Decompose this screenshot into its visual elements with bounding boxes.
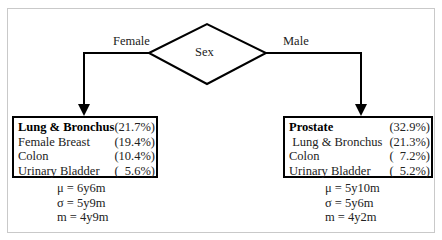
female-arrowhead-icon (78, 104, 90, 116)
male-row-3: Colon ( 7.2%) (289, 149, 431, 164)
cancer-percent: (32.9%) (389, 120, 431, 135)
cancer-name: Colon (18, 149, 49, 164)
cancer-name: Urinary Bladder (18, 164, 100, 179)
female-connector (84, 53, 149, 106)
male-connector (266, 53, 361, 106)
female-stats: μ = 6y6m σ = 5y9m m = 4y9m (57, 181, 109, 225)
edge-label-female: Female (113, 34, 150, 49)
cancer-percent: (21.7%) (114, 120, 156, 135)
cancer-percent: ( 5.6%) (114, 164, 156, 179)
male-mean: μ = 5y10m (325, 181, 380, 196)
cancer-name: Female Breast (18, 135, 90, 150)
cancer-percent: (19.4%) (114, 135, 156, 150)
cancer-percent: ( 5.2%) (389, 164, 431, 179)
male-stddev: σ = 5y6m (325, 196, 380, 211)
edge-label-male: Male (283, 34, 309, 49)
male-row-1: Prostate (32.9%) (289, 120, 431, 135)
cancer-name: Colon (289, 149, 320, 164)
female-row-2: Female Breast (19.4%) (18, 135, 156, 150)
female-median: m = 4y9m (57, 210, 109, 225)
female-row-1: Lung & Bronchus (21.7%) (18, 120, 156, 135)
male-cancer-box: Prostate (32.9%) Lung & Bronchus (21.3%)… (283, 116, 433, 178)
female-mean: μ = 6y6m (57, 181, 109, 196)
cancer-name: Lung & Bronchus (289, 135, 382, 150)
male-row-4: Urinary Bladder ( 5.2%) (289, 164, 431, 179)
cancer-name: Lung & Bronchus (18, 120, 114, 135)
cancer-percent: (10.4%) (114, 149, 156, 164)
male-median: m = 4y2m (325, 210, 380, 225)
female-row-4: Urinary Bladder ( 5.6%) (18, 164, 156, 179)
decision-label: Sex (195, 45, 214, 60)
female-stddev: σ = 5y9m (57, 196, 109, 211)
cancer-name: Prostate (289, 120, 333, 135)
male-arrowhead-icon (355, 104, 367, 116)
male-stats: μ = 5y10m σ = 5y6m m = 4y2m (325, 181, 380, 225)
female-cancer-box: Lung & Bronchus (21.7%) Female Breast (1… (12, 116, 158, 178)
cancer-percent: ( 7.2%) (389, 149, 431, 164)
cancer-percent: (21.3%) (389, 135, 431, 150)
male-row-2: Lung & Bronchus (21.3%) (289, 135, 431, 150)
cancer-name: Urinary Bladder (289, 164, 371, 179)
female-row-3: Colon (10.4%) (18, 149, 156, 164)
